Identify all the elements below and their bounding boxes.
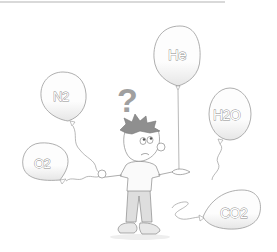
question-mark-icon: ? [117, 81, 138, 119]
balloon-label-co2: CO2 [220, 205, 248, 221]
boy-character [98, 114, 190, 240]
balloon-label-he: He [168, 46, 186, 63]
balloon-label-h2o: H2O [213, 107, 241, 123]
illustration-canvas: He N2 H2O O2 CO2 [0, 0, 277, 252]
balloon-co2: CO2 [172, 190, 260, 229]
balloon-h2o: H2O [209, 88, 251, 180]
balloon-scene: He N2 H2O O2 CO2 [0, 0, 277, 252]
balloon-label-n2: N2 [53, 89, 69, 104]
balloon-o2: O2 [23, 143, 100, 184]
balloon-label-o2: O2 [34, 156, 51, 171]
